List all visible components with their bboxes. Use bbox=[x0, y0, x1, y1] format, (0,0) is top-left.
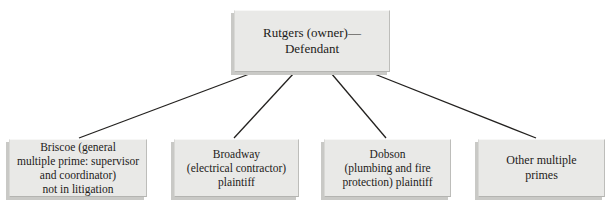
connector-root-to-briscoe bbox=[79, 73, 252, 138]
node-label-line: Briscoe (general bbox=[14, 140, 142, 154]
connector-root-to-broadway bbox=[234, 73, 294, 138]
node-label-line: protection) plaintiff bbox=[329, 175, 446, 189]
node-label-group: Broadway (electrical contractor) plainti… bbox=[175, 147, 298, 189]
node-label-line: (plumbing and fire bbox=[329, 161, 446, 175]
node-label-line: Dobson bbox=[329, 147, 446, 161]
node-label-group: Rutgers (owner)— Defendant bbox=[235, 25, 389, 57]
node-other-multiple-primes: Other multiple primes bbox=[478, 139, 605, 197]
node-briscoe: Briscoe (general multiple prime: supervi… bbox=[9, 139, 147, 197]
node-label-line: Broadway bbox=[179, 147, 294, 161]
node-broadway: Broadway (electrical contractor) plainti… bbox=[174, 139, 299, 197]
org-chart-diagram: Rutgers (owner)— Defendant Briscoe (gene… bbox=[0, 0, 613, 207]
node-label-line: (electrical contractor) bbox=[179, 161, 294, 175]
node-dobson: Dobson (plumbing and fire protection) pl… bbox=[324, 139, 451, 197]
node-label-line: not in litigation bbox=[14, 182, 142, 196]
node-label-line: Defendant bbox=[239, 41, 385, 57]
node-label-line: Rutgers (owner)— bbox=[239, 25, 385, 41]
node-rutgers-owner-defendant: Rutgers (owner)— Defendant bbox=[234, 10, 390, 72]
node-label-line: plaintiff bbox=[179, 175, 294, 189]
node-label-group: Briscoe (general multiple prime: supervi… bbox=[10, 140, 146, 196]
node-label-group: Other multiple primes bbox=[479, 153, 604, 182]
node-label-line: Other multiple bbox=[483, 153, 600, 168]
connector-root-to-other bbox=[372, 73, 536, 138]
node-label-line: primes bbox=[483, 168, 600, 183]
node-label-line: multiple prime: supervisor bbox=[14, 154, 142, 168]
connector-root-to-dobson bbox=[331, 73, 386, 138]
node-label-group: Dobson (plumbing and fire protection) pl… bbox=[325, 147, 450, 189]
node-label-line: and coordinator) bbox=[14, 168, 142, 182]
